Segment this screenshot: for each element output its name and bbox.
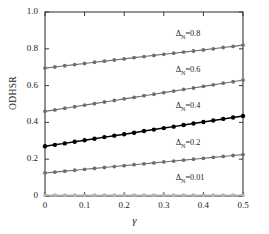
- chart-canvas: [0, 0, 269, 234]
- x-axis-tick-label: 0.1: [68, 200, 102, 210]
- y-axis-tick-label: 0: [8, 190, 38, 200]
- x-axis-tick-label: 0.2: [107, 200, 141, 210]
- y-axis-tick-label: 0.6: [8, 80, 38, 90]
- figure: ODHSR γ 00.20.40.60.81.000.10.20.30.40.5…: [0, 0, 269, 234]
- series-2: [43, 114, 245, 149]
- series-0: [43, 43, 245, 70]
- y-axis-tick-label: 1.0: [8, 6, 38, 16]
- x-axis-tick-label: 0: [28, 200, 62, 210]
- y-axis-tick-label: 0.2: [8, 153, 38, 163]
- series-3: [43, 153, 245, 175]
- x-axis-tick-label: 0.4: [186, 200, 220, 210]
- x-axis-tick-label: 0.5: [226, 200, 260, 210]
- series-label-1: ΔN=0.6: [176, 65, 201, 76]
- series-1: [43, 78, 245, 113]
- series-label-4: ΔN=0.01: [176, 173, 205, 184]
- x-axis-title: γ: [0, 214, 269, 226]
- series-label-2: ΔN=0.4: [176, 101, 201, 112]
- series-label-3: ΔN=0.2: [176, 138, 201, 149]
- series-label-0: ΔN=0.8: [176, 29, 201, 40]
- series-4: [43, 193, 245, 197]
- x-axis-tick-label: 0.3: [147, 200, 181, 210]
- y-axis-tick-label: 0.4: [8, 116, 38, 126]
- y-axis-tick-label: 0.8: [8, 43, 38, 53]
